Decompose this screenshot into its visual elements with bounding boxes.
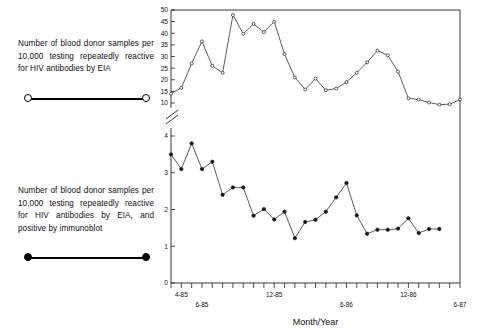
legend-swatch-filled-circle-line <box>18 249 154 267</box>
legend-caption-eia-immunoblot: Number of blood donor samples per 10,000… <box>18 185 154 235</box>
x-tick-label: 6-86 <box>340 301 353 308</box>
filled-circle-marker <box>293 236 296 239</box>
y-tick-label: 15 <box>161 88 169 95</box>
open-circle-marker <box>366 61 369 64</box>
legend-line-segment <box>28 257 146 259</box>
open-circle-marker <box>252 22 255 25</box>
filled-circle-marker <box>273 218 276 221</box>
x-tick-label: 6-87 <box>454 301 467 308</box>
filled-circle-marker <box>314 218 317 221</box>
x-axis-title: Month/Year <box>293 317 339 327</box>
filled-circle-icon <box>142 253 150 261</box>
legend-entry-eia-reactive: Number of blood donor samples per 10,000… <box>18 38 154 108</box>
open-circle-marker <box>397 70 400 73</box>
open-circle-marker <box>242 32 245 35</box>
y-tick-label: 0 <box>164 279 168 286</box>
x-tick-label: 12-86 <box>400 291 417 298</box>
open-circle-marker <box>428 101 431 104</box>
filled-circle-marker <box>211 160 214 163</box>
open-circle-marker <box>324 89 327 92</box>
filled-circle-marker <box>303 220 306 223</box>
y-tick-label: 35 <box>161 41 169 48</box>
open-circle-marker <box>438 103 441 106</box>
open-circle-marker <box>180 86 183 89</box>
series-eia-reactive <box>170 14 462 107</box>
y-axis-upper: 101520253035404550 <box>161 6 175 106</box>
filled-circle-marker <box>190 142 193 145</box>
filled-circle-marker <box>231 186 234 189</box>
open-circle-marker <box>459 98 462 101</box>
filled-circle-marker <box>365 232 368 235</box>
legend-caption-eia-reactive: Number of blood donor samples per 10,000… <box>18 38 154 76</box>
series-eia-immunoblot <box>169 142 441 240</box>
open-circle-marker <box>283 53 286 56</box>
filled-circle-marker <box>200 167 203 170</box>
open-circle-marker <box>314 77 317 80</box>
filled-circle-marker <box>345 181 348 184</box>
plot-frame <box>171 10 460 283</box>
open-circle-icon <box>142 94 150 102</box>
y-tick-label: 4 <box>164 132 168 139</box>
y-tick-label: 30 <box>161 53 169 60</box>
filled-circle-icon <box>24 253 32 261</box>
y-tick-label: 3 <box>164 169 168 176</box>
open-circle-marker <box>170 92 173 95</box>
open-circle-marker <box>345 81 348 84</box>
chart-container: 101520253035404550 01234 4-856-8512-856-… <box>158 0 490 336</box>
y-tick-label: 45 <box>161 18 169 25</box>
legend-swatch-open-circle-line <box>18 90 154 108</box>
x-tick-label: 6-85 <box>196 301 209 308</box>
line-chart: 101520253035404550 01234 4-856-8512-856-… <box>158 0 490 336</box>
open-circle-marker <box>448 103 451 106</box>
open-circle-marker <box>190 62 193 65</box>
open-circle-marker <box>407 97 410 100</box>
filled-circle-marker <box>262 207 265 210</box>
filled-circle-marker <box>221 193 224 196</box>
open-circle-marker <box>221 71 224 74</box>
filled-circle-marker <box>355 214 358 217</box>
open-circle-marker <box>335 87 338 90</box>
y-axis-break-icon <box>166 110 178 124</box>
y-tick-label: 1 <box>164 243 168 250</box>
filled-circle-marker <box>386 228 389 231</box>
filled-circle-marker <box>169 153 172 156</box>
open-circle-marker <box>293 76 296 79</box>
open-circle-marker <box>211 64 214 67</box>
filled-circle-marker <box>252 214 255 217</box>
filled-circle-marker <box>283 210 286 213</box>
open-circle-marker <box>417 98 420 101</box>
x-tick-label: 4-85 <box>175 291 188 298</box>
open-circle-marker <box>376 49 379 52</box>
open-circle-marker <box>273 20 276 23</box>
filled-circle-marker <box>334 196 337 199</box>
open-circle-marker <box>304 88 307 91</box>
filled-circle-marker <box>242 186 245 189</box>
legend-line-segment <box>28 98 146 100</box>
series-polyline <box>171 15 460 105</box>
filled-circle-marker <box>376 228 379 231</box>
filled-circle-marker <box>180 167 183 170</box>
open-circle-marker <box>386 54 389 57</box>
open-circle-marker <box>231 14 234 17</box>
open-circle-marker <box>262 31 265 34</box>
x-axis-ticks <box>171 283 460 288</box>
y-tick-label: 2 <box>164 206 168 213</box>
filled-circle-marker <box>417 231 420 234</box>
filled-circle-marker <box>438 227 441 230</box>
y-tick-label: 25 <box>161 65 169 72</box>
y-tick-label: 40 <box>161 30 169 37</box>
y-tick-label: 20 <box>161 76 169 83</box>
open-circle-icon <box>24 94 32 102</box>
y-tick-label: 10 <box>161 99 169 106</box>
legend-entry-eia-immunoblot: Number of blood donor samples per 10,000… <box>18 185 154 267</box>
open-circle-marker <box>200 40 203 43</box>
filled-circle-marker <box>427 227 430 230</box>
filled-circle-marker <box>324 210 327 213</box>
filled-circle-marker <box>407 217 410 220</box>
x-tick-label: 12-85 <box>266 291 283 298</box>
x-axis-tick-labels: 4-856-8512-856-8612-866-87 <box>175 291 467 308</box>
filled-circle-marker <box>396 227 399 230</box>
open-circle-marker <box>355 71 358 74</box>
y-tick-label: 50 <box>161 6 169 13</box>
